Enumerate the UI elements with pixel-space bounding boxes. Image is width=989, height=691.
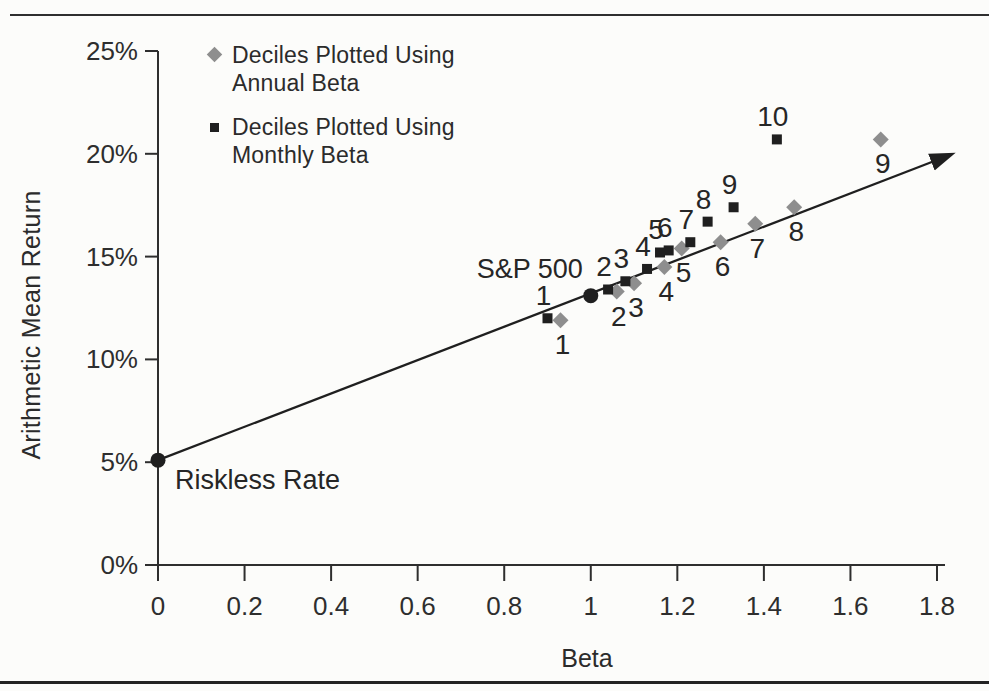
decile-4-annual-label: 4 xyxy=(659,276,675,307)
decile-6-monthly-label: 6 xyxy=(657,212,673,243)
decile-7-annual-diamond xyxy=(747,216,763,232)
x-tick-label-1.8: 1.8 xyxy=(895,592,979,620)
y-tick-label-20%: 20% xyxy=(60,140,138,168)
y-tick-label-10%: 10% xyxy=(60,345,138,373)
x-tick-label-1.4: 1.4 xyxy=(722,592,806,620)
x-tick-label-0.8: 0.8 xyxy=(462,592,546,620)
annotation-s-p-500: S&P 500 xyxy=(477,254,583,284)
y-tick-label-15%: 15% xyxy=(60,243,138,271)
decile-2-annual-label: 2 xyxy=(611,301,627,332)
y-tick-label-5%: 5% xyxy=(60,448,138,476)
decile-8-monthly-square xyxy=(703,217,713,227)
decile-2-monthly-square xyxy=(603,284,613,294)
x-tick-label-1.6: 1.6 xyxy=(808,592,892,620)
annotation-riskless-rate: Riskless Rate xyxy=(175,465,340,495)
decile-9-monthly-square xyxy=(729,202,739,212)
x-tick-label-0: 0 xyxy=(116,592,200,620)
decile-7-monthly-square xyxy=(685,237,695,247)
scatter-plot-canvas: S&P 500Riskless Rate12345678912345678910 xyxy=(0,0,989,691)
y-tick-label-0%: 0% xyxy=(60,551,138,579)
decile-1-annual-diamond xyxy=(552,312,568,328)
decile-10-monthly-square xyxy=(772,134,782,144)
decile-9-annual-label: 9 xyxy=(875,148,891,179)
x-tick-label-0.4: 0.4 xyxy=(289,592,373,620)
y-tick-label-25%: 25% xyxy=(60,37,138,65)
decile-4-annual-diamond xyxy=(656,259,672,275)
decile-1-monthly-label: 1 xyxy=(536,280,552,311)
decile-8-monthly-label: 8 xyxy=(696,184,712,215)
decile-7-annual-label: 7 xyxy=(749,233,765,264)
point-riskless-rate xyxy=(151,453,166,468)
x-tick-label-0.2: 0.2 xyxy=(203,592,287,620)
decile-6-monthly-square xyxy=(664,245,674,255)
decile-8-annual-label: 8 xyxy=(788,216,804,247)
decile-6-annual-label: 6 xyxy=(715,251,731,282)
decile-3-annual-label: 3 xyxy=(628,292,644,323)
decile-2-monthly-label: 2 xyxy=(596,251,612,282)
decile-4-monthly-square xyxy=(642,264,652,274)
decile-7-monthly-label: 7 xyxy=(679,204,695,235)
decile-1-monthly-square xyxy=(543,313,553,323)
decile-3-monthly-label: 3 xyxy=(614,243,630,274)
decile-5-annual-label: 5 xyxy=(676,257,692,288)
x-tick-label-1.2: 1.2 xyxy=(635,592,719,620)
decile-9-monthly-label: 9 xyxy=(722,169,738,200)
decile-5-monthly-square xyxy=(655,247,665,257)
x-tick-label-1: 1 xyxy=(549,592,633,620)
book-figure: Arithmetic Mean Return Beta Deciles Plot… xyxy=(0,0,989,691)
point-s-p-500 xyxy=(583,288,598,303)
decile-10-monthly-label: 10 xyxy=(757,101,788,132)
decile-9-annual-diamond xyxy=(873,131,889,147)
x-tick-label-0.6: 0.6 xyxy=(376,592,460,620)
decile-6-annual-diamond xyxy=(713,234,729,250)
decile-1-annual-label: 1 xyxy=(555,329,571,360)
decile-3-monthly-square xyxy=(620,276,630,286)
